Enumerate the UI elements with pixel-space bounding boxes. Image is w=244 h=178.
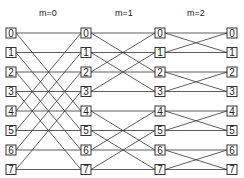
diagram-canvas: 01234567012345670123456701234567 m=0m=1m… <box>0 0 244 178</box>
node-label: 2 <box>157 67 163 78</box>
node-c1-r0: 0 <box>81 28 91 39</box>
node-c0-r4: 4 <box>6 106 16 117</box>
node-c3-r1: 1 <box>227 47 237 58</box>
node-c2-r3: 3 <box>155 86 165 97</box>
node-label: 1 <box>229 47 235 58</box>
node-label: 6 <box>83 145 89 156</box>
node-c2-r0: 0 <box>155 28 165 39</box>
node-label: 5 <box>157 125 163 136</box>
node-c0-r0: 0 <box>6 28 16 39</box>
node-label: 5 <box>83 125 89 136</box>
node-label: 7 <box>229 164 235 175</box>
node-label: 0 <box>83 28 89 39</box>
node-label: 7 <box>8 164 14 175</box>
node-label: 1 <box>157 47 163 58</box>
node-label: 6 <box>157 145 163 156</box>
node-label: 7 <box>83 164 89 175</box>
node-label: 0 <box>229 28 235 39</box>
node-label: 6 <box>8 145 14 156</box>
node-label: 4 <box>157 106 163 117</box>
node-label: 3 <box>8 86 14 97</box>
node-c2-r5: 5 <box>155 125 165 136</box>
node-c3-r6: 6 <box>227 145 237 156</box>
node-c3-r7: 7 <box>227 164 237 175</box>
node-label: 2 <box>229 67 235 78</box>
node-c1-r5: 5 <box>81 125 91 136</box>
node-c2-r4: 4 <box>155 106 165 117</box>
node-label: 2 <box>83 67 89 78</box>
node-label: 3 <box>83 86 89 97</box>
node-c1-r4: 4 <box>81 106 91 117</box>
node-label: 2 <box>8 67 14 78</box>
node-c0-r3: 3 <box>6 86 16 97</box>
node-label: 4 <box>8 106 14 117</box>
butterfly-diagram: 01234567012345670123456701234567 m=0m=1m… <box>0 0 244 178</box>
stage-label-m1: m=1 <box>115 8 133 18</box>
node-label: 0 <box>8 28 14 39</box>
node-label: 6 <box>229 145 235 156</box>
edges-layer <box>16 33 227 170</box>
node-c2-r7: 7 <box>155 164 165 175</box>
node-c3-r3: 3 <box>227 86 237 97</box>
node-c0-r2: 2 <box>6 67 16 78</box>
node-c1-r2: 2 <box>81 67 91 78</box>
node-c0-r7: 7 <box>6 164 16 175</box>
node-c3-r4: 4 <box>227 106 237 117</box>
stage-label-m2: m=2 <box>187 8 205 18</box>
node-c3-r5: 5 <box>227 125 237 136</box>
node-label: 3 <box>157 86 163 97</box>
node-c2-r1: 1 <box>155 47 165 58</box>
node-label: 5 <box>8 125 14 136</box>
node-c3-r0: 0 <box>227 28 237 39</box>
node-label: 7 <box>157 164 163 175</box>
node-c2-r6: 6 <box>155 145 165 156</box>
node-c3-r2: 2 <box>227 67 237 78</box>
node-c0-r5: 5 <box>6 125 16 136</box>
node-label: 3 <box>229 86 235 97</box>
stage-label-m0: m=0 <box>39 8 57 18</box>
node-c1-r6: 6 <box>81 145 91 156</box>
stage-labels: m=0m=1m=2 <box>39 8 205 18</box>
node-c0-r6: 6 <box>6 145 16 156</box>
node-label: 1 <box>83 47 89 58</box>
node-c0-r1: 1 <box>6 47 16 58</box>
node-label: 0 <box>157 28 163 39</box>
node-label: 5 <box>229 125 235 136</box>
node-label: 4 <box>83 106 89 117</box>
node-c1-r1: 1 <box>81 47 91 58</box>
node-c2-r2: 2 <box>155 67 165 78</box>
node-c1-r7: 7 <box>81 164 91 175</box>
node-label: 4 <box>229 106 235 117</box>
node-label: 1 <box>8 47 14 58</box>
node-c1-r3: 3 <box>81 86 91 97</box>
